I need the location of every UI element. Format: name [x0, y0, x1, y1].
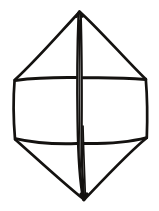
figure-root [0, 0, 159, 211]
crystal-drawing [0, 0, 159, 211]
left-prism-edge [14, 80, 15, 139]
right-prism-edge [146, 79, 147, 137]
